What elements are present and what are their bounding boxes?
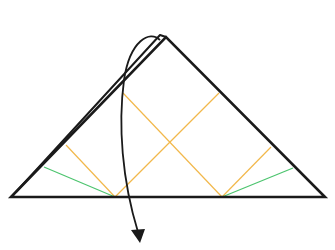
- origami-diagram: [0, 0, 335, 250]
- crease-line: [123, 93, 222, 197]
- arrow-head-icon: [131, 229, 145, 243]
- fold-arrow: [121, 36, 160, 232]
- crease-line: [222, 168, 293, 197]
- crease-line: [115, 93, 219, 197]
- mountain-creases: [44, 167, 293, 197]
- crease-line: [66, 145, 115, 197]
- crease-line: [44, 167, 115, 197]
- crease-line: [222, 147, 271, 197]
